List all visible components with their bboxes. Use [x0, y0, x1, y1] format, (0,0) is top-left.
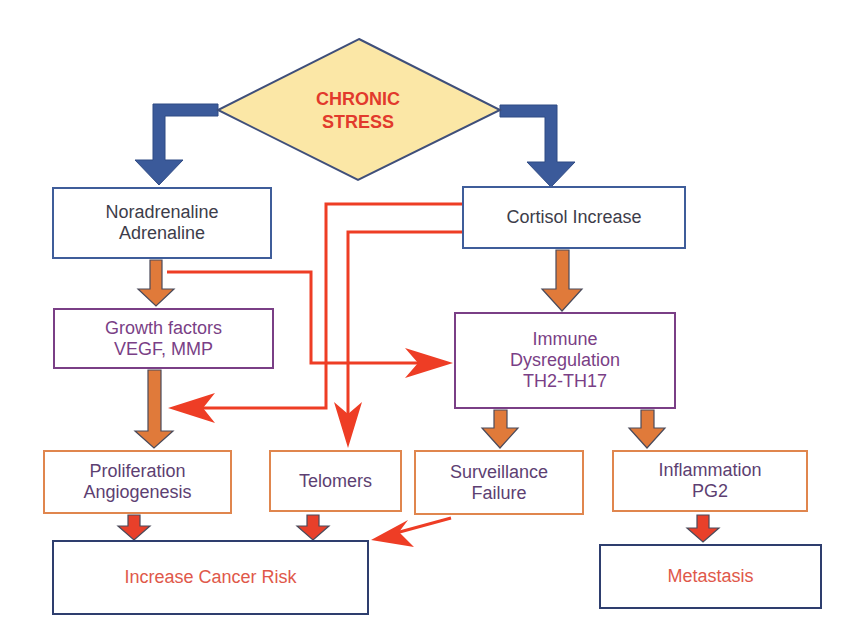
- orange-arrow-cortisol-to-immune: [542, 250, 582, 311]
- node-label: Noradrenaline Adrenaline: [105, 202, 218, 244]
- node-cortisol: Cortisol Increase: [462, 186, 686, 249]
- node-label: Surveillance Failure: [450, 462, 548, 504]
- node-proliferation: Proliferation Angiogenesis: [43, 450, 232, 514]
- node-label: Proliferation Angiogenesis: [83, 461, 191, 503]
- orange-arrow-immune-to-inflammation: [629, 410, 665, 448]
- blue-arrow-left: [135, 104, 218, 185]
- node-label: Inflammation PG2: [658, 460, 761, 502]
- blue-arrow-right: [500, 105, 575, 187]
- orange-arrow-noradrenaline-to-growth: [138, 260, 174, 306]
- node-label: Telomers: [299, 471, 372, 492]
- red-arrow-telomers-to-cancer: [297, 515, 329, 540]
- node-surveillance-failure: Surveillance Failure: [414, 450, 584, 515]
- node-label: Increase Cancer Risk: [124, 567, 296, 588]
- node-label: Immune Dysregulation TH2-TH17: [510, 329, 620, 392]
- node-telomers: Telomers: [269, 450, 402, 512]
- chronic-stress-label: CHRONIC STRESS: [258, 88, 458, 134]
- node-metastasis: Metastasis: [599, 544, 822, 609]
- stress-cancer-flowchart: CHRONIC STRESS Noradrenaline Adrenaline …: [0, 0, 862, 640]
- orange-arrow-immune-to-surveillance: [482, 410, 518, 448]
- node-label: Cortisol Increase: [506, 207, 641, 228]
- red-line-cortisol-to-telomers: [348, 232, 463, 432]
- red-arrow-proliferation-to-cancer: [118, 515, 150, 540]
- node-label: Metastasis: [667, 566, 753, 587]
- node-noradrenaline: Noradrenaline Adrenaline: [52, 187, 272, 259]
- node-immune-dysregulation: Immune Dysregulation TH2-TH17: [454, 312, 676, 409]
- node-inflammation: Inflammation PG2: [612, 450, 808, 512]
- node-cancer-risk: Increase Cancer Risk: [52, 540, 369, 615]
- red-arrow-inflammation-to-metastasis: [687, 515, 719, 542]
- orange-arrow-growth-to-proliferation: [135, 370, 173, 448]
- node-growth-factors: Growth factors VEGF, MMP: [53, 308, 274, 369]
- arrowhead-into-cancer: [371, 520, 414, 547]
- node-label: Growth factors VEGF, MMP: [105, 318, 222, 360]
